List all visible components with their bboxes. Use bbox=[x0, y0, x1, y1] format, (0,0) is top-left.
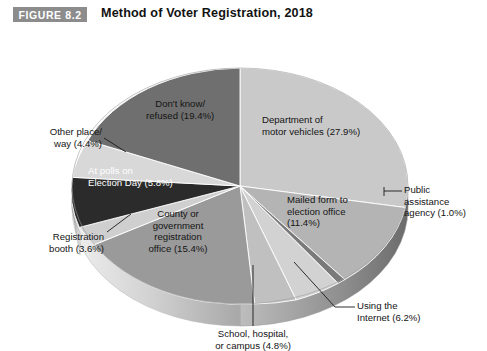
slice-label-at-polls-on-election-day: At polls on Election Day (5.8%) bbox=[88, 165, 173, 188]
pie-chart-stage: Department of motor vehicles (27.9%) Don… bbox=[0, 26, 487, 340]
pie-chart-svg bbox=[0, 26, 487, 340]
callout-label-public-assistance-agency: Public assistance agency (1.0%) bbox=[404, 184, 466, 219]
callout-label-other-place-way: Other place/ way (4.4%) bbox=[14, 126, 102, 149]
figure-number-badge: FIGURE 8.2 bbox=[13, 7, 87, 22]
callout-label-using-the-internet: Using the Internet (6.2%) bbox=[357, 300, 420, 323]
slice-label-county-or-government-registration-office: County or government registration office… bbox=[125, 208, 231, 254]
callout-label-school-hospital-or-campus: School, hospital, or campus (4.8%) bbox=[188, 328, 318, 351]
pie-slice-department-of-motor-vehicles[interactable] bbox=[240, 68, 408, 208]
callout-label-registration-booth: Registration booth (3.6%) bbox=[8, 231, 104, 254]
figure-title: Method of Voter Registration, 2018 bbox=[101, 6, 313, 20]
slice-label-mailed-form-to-election-office: Mailed form to election office (11.4%) bbox=[287, 194, 348, 229]
pie-3d-body bbox=[71, 68, 408, 326]
slice-label-department-of-motor-vehicles: Department of motor vehicles (27.9%) bbox=[262, 114, 360, 137]
slice-label-dont-know-refused: Don't know/ refused (19.4%) bbox=[146, 98, 214, 121]
